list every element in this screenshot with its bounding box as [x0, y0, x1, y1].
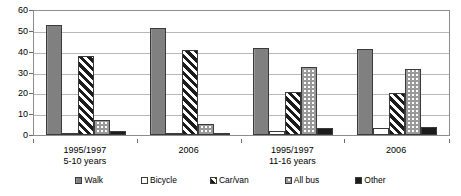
bar-allbus: [405, 69, 421, 135]
bar-carvan: [389, 93, 405, 135]
x-tick-mark: [449, 139, 450, 143]
bar-group: [242, 10, 346, 135]
y-tick-mark-20: [29, 93, 33, 94]
x-axis-label: 2006: [344, 145, 448, 156]
y-tick-mark-0: [29, 135, 33, 136]
legend-swatch-carvan-icon: [210, 177, 217, 184]
bar-allbus: [198, 124, 214, 135]
plot-wrapper: 0102030405060: [0, 0, 461, 150]
bar-other: [110, 131, 126, 135]
chart-legend: WalkBicycleCar/vanAll busOther: [0, 172, 461, 188]
x-axis-label-line1: 1995/1997: [64, 145, 107, 155]
bar-group: [138, 10, 242, 135]
legend-item-allbus[interactable]: All bus: [285, 176, 320, 185]
bar-allbus: [94, 120, 110, 135]
bar-other: [317, 128, 333, 135]
y-tick-label-0: 0: [23, 131, 28, 140]
bar-walk: [150, 28, 166, 135]
x-axis-label-line2: 5-10 years: [33, 156, 137, 167]
x-tick-mark: [241, 139, 242, 143]
y-axis: 0102030405060: [0, 10, 30, 136]
bar-other: [421, 127, 437, 135]
bar-bicycle: [62, 133, 78, 135]
y-tick-mark-60: [29, 10, 33, 11]
x-axis-label-line2: 11-16 years: [241, 156, 345, 167]
x-axis: 1995/19975-10 years20061995/199711-16 ye…: [33, 139, 450, 169]
bar-bicycle: [373, 128, 389, 135]
y-tick-mark-30: [29, 73, 33, 74]
legend-swatch-walk-icon: [75, 177, 82, 184]
y-tick-label-60: 60: [18, 6, 28, 15]
legend-item-walk[interactable]: Walk: [75, 176, 103, 185]
bar-walk: [46, 25, 62, 135]
bar-bicycle: [269, 131, 285, 135]
y-tick-label-20: 20: [18, 89, 28, 98]
y-tick-label-30: 30: [18, 68, 28, 77]
bar-group: [34, 10, 138, 135]
x-axis-label-line1: 1995/1997: [271, 145, 314, 155]
x-tick-mark: [33, 139, 34, 143]
x-tick-mark: [344, 139, 345, 143]
bar-bicycle: [166, 133, 182, 135]
legend-swatch-allbus-icon: [285, 177, 292, 184]
bar-carvan: [285, 92, 301, 135]
bar-allbus: [301, 67, 317, 135]
legend-item-bicycle[interactable]: Bicycle: [141, 176, 177, 185]
bar-walk: [253, 48, 269, 136]
bars-layer: [34, 10, 449, 135]
bar-other: [214, 133, 230, 135]
legend-item-other[interactable]: Other: [355, 176, 385, 185]
y-tick-mark-50: [29, 31, 33, 32]
bar-carvan: [182, 50, 198, 135]
bar-chart: 0102030405060 1995/19975-10 years2006199…: [0, 0, 461, 196]
legend-item-carvan[interactable]: Car/van: [210, 176, 249, 185]
legend-label: Car/van: [219, 176, 249, 185]
bar-carvan: [78, 56, 94, 135]
y-tick-label-50: 50: [18, 26, 28, 35]
x-axis-label-line1: 2006: [179, 145, 199, 155]
legend-label: All bus: [294, 176, 320, 185]
bar-group: [345, 10, 449, 135]
legend-swatch-bicycle-icon: [141, 177, 148, 184]
x-axis-label-line1: 2006: [386, 145, 406, 155]
y-tick-label-10: 10: [18, 110, 28, 119]
legend-label: Other: [364, 176, 385, 185]
legend-swatch-other-icon: [355, 177, 362, 184]
x-axis-label: 1995/19975-10 years: [33, 145, 137, 167]
x-tick-mark: [137, 139, 138, 143]
x-axis-label: 1995/199711-16 years: [241, 145, 345, 167]
legend-label: Bicycle: [150, 176, 177, 185]
y-tick-mark-10: [29, 114, 33, 115]
y-tick-mark-40: [29, 52, 33, 53]
x-axis-label: 2006: [137, 145, 241, 156]
bar-walk: [357, 49, 373, 135]
legend-label: Walk: [84, 176, 103, 185]
y-tick-label-40: 40: [18, 47, 28, 56]
